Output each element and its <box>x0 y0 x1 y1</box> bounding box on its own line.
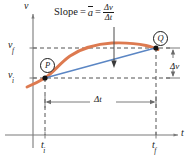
x-axis-title: t <box>181 128 184 138</box>
point-label-p: P <box>40 58 55 73</box>
y-tick-label-vf-subscript: f <box>12 47 14 55</box>
slope-equals-second: = <box>95 7 101 18</box>
delta-t-arrowhead-left <box>46 100 52 104</box>
velocity-time-graph-figure: Slope = a = Δv Δt v t vf vi ti tf Δv Δt … <box>0 0 192 159</box>
point-marker-q <box>153 45 158 50</box>
slope-fraction: Δv Δt <box>103 3 114 22</box>
point-label-q: Q <box>153 31 168 46</box>
average-acceleration-symbol: a <box>88 7 93 19</box>
delta-t-label: Δt <box>94 95 102 104</box>
slope-word: Slope <box>54 7 78 18</box>
y-axis-arrowhead <box>31 14 34 19</box>
y-axis-title: v <box>24 1 28 11</box>
delta-v-arrowhead-down <box>171 72 175 78</box>
x-axis-arrowhead <box>174 133 179 136</box>
x-tick-label-tf-subscript: f <box>154 147 156 155</box>
y-tick-label-vf: vf <box>8 40 14 53</box>
delta-v-label: Δv <box>170 62 179 71</box>
slope-equation-label: Slope = a = Δv Δt <box>54 3 114 22</box>
x-tick-label-ti-subscript: i <box>43 147 45 155</box>
x-tick-label-tf: tf <box>152 140 157 153</box>
y-tick-label-vi: vi <box>8 70 14 83</box>
graph-canvas <box>0 0 192 159</box>
slope-pointer-arrowhead <box>111 61 116 69</box>
x-tick-label-ti: ti <box>41 140 46 153</box>
delta-t-arrowhead-right <box>150 100 156 104</box>
point-marker-p <box>42 75 47 80</box>
y-tick-label-vi-subscript: i <box>12 77 14 85</box>
slope-equals-first: = <box>80 7 86 18</box>
slope-fraction-denominator: Δt <box>104 13 113 22</box>
delta-v-arrowhead-up <box>171 49 175 55</box>
